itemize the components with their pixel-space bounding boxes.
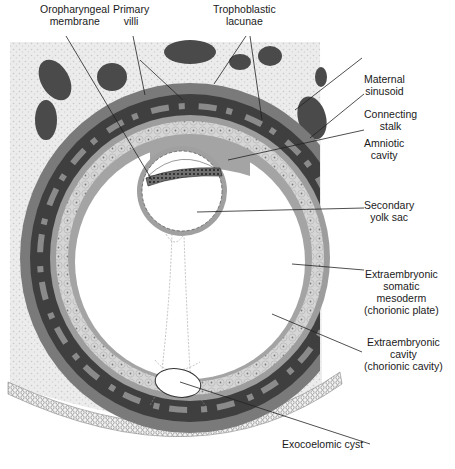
- implantation-diagram: [0, 0, 455, 469]
- label-exocoelomic-cyst: Exocoelomic cyst: [282, 438, 363, 450]
- label-line: stalk: [364, 120, 417, 132]
- label-line: Secondary: [364, 199, 414, 211]
- label-maternal-sinusoid: Maternal sinusoid: [364, 73, 405, 97]
- label-line: Amniotic: [364, 137, 404, 149]
- label-line: cavity: [364, 348, 443, 360]
- label-line: Maternal: [364, 73, 405, 85]
- label-extraembryonic-cavity: Extraembryonic cavity (chorionic cavity): [364, 336, 443, 372]
- label-line: Connecting: [364, 108, 417, 120]
- label-line: lacunae: [213, 15, 276, 27]
- label-line: Oropharyngeal: [40, 3, 109, 15]
- label-line: (chorionic cavity): [364, 360, 443, 372]
- label-connecting-stalk: Connecting stalk: [364, 108, 417, 132]
- label-line: Trophoblastic: [213, 3, 276, 15]
- label-secondary-yolk-sac: Secondary yolk sac: [364, 199, 414, 223]
- label-line: villi: [113, 15, 149, 27]
- label-line: somatic: [364, 280, 439, 292]
- label-line: cavity: [364, 149, 404, 161]
- label-line: sinusoid: [364, 85, 405, 97]
- label-line: Extraembryonic: [364, 336, 443, 348]
- label-extraembryonic-somatic-mesoderm: Extraembryonic somatic mesoderm (chorion…: [364, 268, 439, 316]
- label-line: yolk sac: [364, 211, 414, 223]
- label-line: Exocoelomic cyst: [282, 438, 363, 450]
- label-line: Primary: [113, 3, 149, 15]
- label-line: mesoderm: [364, 292, 439, 304]
- label-primary-villi: Primary villi: [113, 3, 149, 27]
- label-line: (chorionic plate): [364, 304, 439, 316]
- label-oropharyngeal-membrane: Oropharyngeal membrane: [40, 3, 109, 27]
- label-line: membrane: [40, 15, 109, 27]
- label-amniotic-cavity: Amniotic cavity: [364, 137, 404, 161]
- label-trophoblastic-lacunae: Trophoblastic lacunae: [213, 3, 276, 27]
- label-line: Extraembryonic: [364, 268, 439, 280]
